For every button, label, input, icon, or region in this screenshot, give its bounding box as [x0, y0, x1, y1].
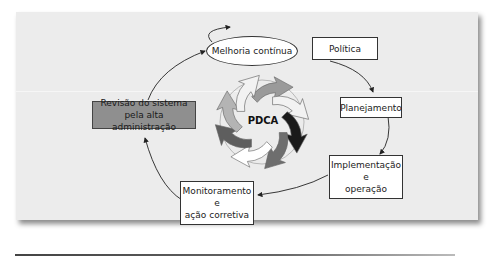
- arrow-revisao-to-melhoria: [148, 51, 205, 100]
- bottom-rule: [15, 254, 455, 256]
- node-politica: Política: [312, 37, 378, 60]
- arrow-politica-to-planejamento: [330, 61, 373, 92]
- node-label-line1: Implementação: [331, 159, 401, 171]
- node-melhoria-continua: Melhoria contínua: [206, 36, 298, 66]
- arrow-monitoramento-to-revisao: [145, 138, 182, 200]
- node-label-line1: Monitoramento: [183, 185, 252, 197]
- node-implementacao-operacao: Implementação e operação: [329, 155, 403, 199]
- node-label: Política: [329, 43, 361, 55]
- node-label-line2: pela alta administração: [93, 109, 195, 133]
- node-planejamento: Planejamento: [340, 97, 402, 118]
- arrow-implementacao-to-monitoramento: [258, 175, 328, 195]
- node-label-line2: e: [363, 171, 369, 183]
- node-label-line3: operação: [345, 183, 387, 195]
- node-label-line2: e: [214, 197, 220, 209]
- node-revisao-sistema: Revisão do sistema pela alta administraç…: [92, 101, 196, 129]
- node-label: Melhoria contínua: [212, 46, 293, 56]
- node-label: Planejamento: [340, 102, 402, 114]
- node-monitoramento-acao-corretiva: Monitoramento e ação corretiva: [180, 181, 254, 225]
- node-label-line1: Revisão do sistema: [100, 97, 187, 109]
- arrow-planejamento-to-implementacao: [380, 116, 389, 154]
- node-label-line3: ação corretiva: [185, 209, 249, 221]
- pdca-center-label: PDCA: [243, 115, 283, 126]
